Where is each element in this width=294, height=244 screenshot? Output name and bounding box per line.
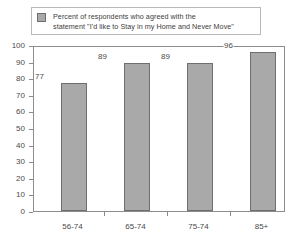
y-axis-tick-label: 50: [16, 125, 25, 133]
x-axis-tick-mark: [230, 212, 231, 216]
x-axis-tick-mark: [104, 212, 105, 216]
legend-label-line-2: statement "I'd like to Stay in my Home a…: [53, 22, 234, 32]
y-axis-tick-label: 100: [12, 42, 25, 50]
legend-color-swatch-icon: [37, 13, 46, 22]
y-axis: 1009080706050403020100: [0, 40, 29, 218]
y-axis-tick-label: 20: [16, 175, 25, 183]
y-axis-tick-label: 70: [16, 92, 25, 100]
bar-65-74[interactable]: [124, 63, 150, 211]
legend-label: Percent of respondents who agreed with t…: [53, 12, 234, 31]
y-axis-tick-label: 10: [16, 191, 25, 199]
bar-85+[interactable]: [250, 52, 276, 211]
bar-value-label: 89: [160, 53, 171, 61]
x-axis-tick-label: 75-74: [188, 222, 208, 231]
x-axis-tick-label: 85+: [255, 222, 269, 231]
bar-value-label: 89: [97, 53, 108, 61]
y-axis-tick-label: 30: [16, 158, 25, 166]
bar-chart: Percent of respondents who agreed with t…: [0, 0, 294, 244]
y-axis-tick-label: 0: [21, 208, 25, 216]
x-axis-tick-label: 56-74: [62, 222, 82, 231]
y-axis-tick-label: 90: [16, 59, 25, 67]
plot-area: [33, 46, 285, 212]
y-axis-tick-label: 40: [16, 142, 25, 150]
bar-value-label: 77: [34, 73, 45, 81]
chart-legend: Percent of respondents who agreed with t…: [31, 7, 261, 35]
bar-56-74[interactable]: [61, 83, 87, 211]
bar-75-74[interactable]: [187, 63, 213, 211]
x-axis-tick-mark: [167, 212, 168, 216]
y-axis-tick-mark: [29, 212, 33, 213]
legend-label-line-1: Percent of respondents who agreed with t…: [53, 12, 234, 22]
y-axis-tick-label: 80: [16, 75, 25, 83]
x-axis-tick-label: 65-74: [125, 222, 145, 231]
bar-value-label: 96: [223, 42, 234, 50]
y-axis-tick-label: 60: [16, 108, 25, 116]
